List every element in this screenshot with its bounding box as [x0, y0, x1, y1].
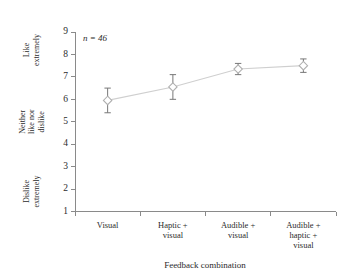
- y-tick-group: [71, 32, 76, 212]
- x-axis: [75, 212, 336, 217]
- sample-size-annotation: n = 46: [83, 33, 108, 43]
- x-tick-label: Audible +: [221, 220, 256, 230]
- y-category-label: Dislikeextremely: [22, 176, 41, 208]
- line-chart-svg: 123456789 LikeextremelyNeitherlike nordi…: [0, 0, 343, 278]
- y-tick-label-group: 123456789: [63, 26, 68, 216]
- data-point-marker: [299, 61, 307, 69]
- y-category-label-line: extremely: [32, 34, 41, 66]
- data-marker-group: [103, 61, 307, 104]
- y-tick-label: 5: [63, 116, 68, 126]
- y-tick-label: 4: [63, 138, 68, 148]
- chart-figure: 123456789 LikeextremelyNeitherlike nordi…: [0, 0, 343, 278]
- y-tick-label: 1: [63, 206, 68, 216]
- x-tick-label-group: VisualHaptic +visualAudible +visualAudib…: [97, 220, 321, 250]
- data-point-marker: [169, 83, 177, 91]
- y-tick-label: 3: [63, 161, 68, 171]
- annotation-group: n = 46: [83, 33, 108, 43]
- y-category-label-line: like nor: [27, 109, 36, 134]
- x-tick-label: visual: [163, 230, 184, 240]
- x-tick-label: Haptic +: [158, 220, 188, 230]
- x-tick-label: haptic +: [290, 230, 318, 240]
- y-tick-label: 2: [63, 183, 68, 193]
- y-tick-label: 9: [63, 26, 68, 36]
- x-tick-group: [75, 212, 336, 217]
- data-series-line: [108, 66, 304, 101]
- y-category-label-line: extremely: [32, 176, 41, 208]
- x-axis-title: Feedback combination: [164, 260, 246, 270]
- y-category-label-line: Like: [22, 42, 31, 57]
- x-tick-label: Audible +: [286, 220, 321, 230]
- y-tick-label: 8: [63, 49, 68, 59]
- y-category-label: Likeextremely: [22, 34, 41, 66]
- x-tick-label: Visual: [97, 220, 119, 230]
- y-category-label: Neitherlike nordislike: [18, 109, 46, 134]
- y-category-label-line: dislike: [37, 111, 46, 133]
- y-category-label-group: LikeextremelyNeitherlike nordislikeDisli…: [18, 34, 46, 207]
- x-tick-label: visual: [293, 240, 314, 250]
- y-axis: [71, 32, 76, 212]
- y-tick-label: 6: [63, 94, 68, 104]
- data-point-marker: [103, 96, 111, 104]
- y-tick-label: 7: [63, 71, 68, 81]
- data-point-marker: [234, 65, 242, 73]
- y-category-label-line: Neither: [18, 109, 27, 133]
- y-category-label-line: Dislike: [22, 179, 31, 203]
- x-tick-label: visual: [228, 230, 249, 240]
